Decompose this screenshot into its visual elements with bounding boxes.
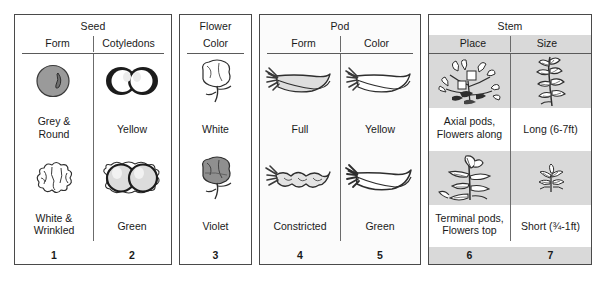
subheader-row-flower: Color (187, 35, 244, 54)
cell-violet-flower: Violet (180, 151, 251, 248)
panel-seed: Seed Form Cotyledons Grey & Round (14, 14, 172, 265)
cell-constricted-pod: Constricted (260, 151, 340, 248)
caption-yellow-pod: Yellow (340, 108, 420, 151)
number-row-seed: 1 2 (15, 247, 171, 264)
group-title-stem: Stem (429, 15, 591, 35)
trait-number-4: 4 (260, 247, 340, 261)
column-seed-form: Grey & Round White & Wrinkled (15, 54, 93, 247)
axial-flowers-plant-icon (429, 54, 510, 108)
number-row-flower: 3 (180, 247, 251, 264)
group-title-flower: Flower (180, 15, 251, 35)
tall-plant-icon (510, 54, 591, 108)
panel-flower: Flower Color Wh (179, 14, 252, 265)
terminal-flowers-plant-icon (429, 151, 510, 205)
subheader-stem-size: Size (510, 35, 584, 53)
green-pod-icon (340, 151, 420, 205)
caption-long-stem: Long (6-7ft) (510, 108, 591, 151)
number-row-stem: 6 7 (429, 247, 591, 264)
caption-green-cotyledons: Green (93, 205, 171, 248)
caption-constricted-pod: Constricted (260, 205, 340, 248)
panel-stem: Stem Place Size (428, 14, 592, 265)
columns-flower: White Violet (180, 54, 251, 247)
caption-short-stem: Short (¾-1ft) (510, 205, 591, 248)
subheader-stem-place: Place (436, 35, 510, 53)
columns-pod: Full Constricted (260, 54, 420, 247)
caption-white-wrinkled: White & Wrinkled (15, 205, 93, 248)
cell-white-flower: White (180, 54, 251, 151)
green-cotyledons-icon (93, 151, 171, 205)
columns-stem: Axial pods, Flowers along (429, 54, 591, 247)
caption-violet-flower: Violet (180, 205, 251, 248)
group-title-seed: Seed (15, 15, 171, 35)
subheader-seed-cotyledons: Cotyledons (93, 35, 164, 53)
number-row-pod: 4 5 (260, 247, 420, 264)
caption-axial-pods: Axial pods, Flowers along (429, 108, 510, 151)
wrinkled-white-seed-icon (15, 151, 93, 205)
round-grey-seed-icon (15, 54, 93, 108)
column-stem-place: Axial pods, Flowers along (429, 54, 510, 247)
trait-number-1: 1 (15, 247, 93, 261)
caption-full-pod: Full (260, 108, 340, 151)
cell-axial-pods: Axial pods, Flowers along (429, 54, 510, 151)
column-pod-color: Yellow Green (340, 54, 420, 247)
trait-number-5: 5 (340, 247, 420, 261)
violet-flower-icon (180, 151, 251, 205)
full-pod-icon (260, 54, 340, 108)
trait-number-7: 7 (510, 247, 591, 261)
caption-white-flower: White (180, 108, 251, 151)
caption-yellow-cotyledons: Yellow (93, 108, 171, 151)
constricted-pod-icon (260, 151, 340, 205)
cell-green-cotyledons: Green (93, 151, 171, 248)
column-pod-form: Full Constricted (260, 54, 340, 247)
trait-number-2: 2 (93, 247, 171, 261)
subheader-seed-form: Form (22, 35, 93, 53)
cell-yellow-cotyledons: Yellow (93, 54, 171, 151)
caption-grey-round: Grey & Round (15, 108, 93, 151)
caption-terminal-pods: Terminal pods, Flowers top (429, 205, 510, 248)
cell-short-stem: Short (¾-1ft) (510, 151, 591, 248)
subheader-pod-form: Form (267, 35, 340, 53)
columns-seed: Grey & Round White & Wrinkled (15, 54, 171, 247)
column-flower-color: White Violet (180, 54, 251, 247)
trait-number-3: 3 (180, 247, 251, 261)
column-seed-cotyledons: Yellow Green (93, 54, 171, 247)
yellow-pod-icon (340, 54, 420, 108)
subheader-row-seed: Form Cotyledons (22, 35, 164, 54)
cell-terminal-pods: Terminal pods, Flowers top (429, 151, 510, 248)
trait-number-6: 6 (429, 247, 510, 261)
white-flower-icon (180, 54, 251, 108)
group-title-pod: Pod (260, 15, 420, 35)
subheader-flower-color: Color (187, 35, 244, 53)
cell-yellow-pod: Yellow (340, 54, 420, 151)
cell-long-stem: Long (6-7ft) (510, 54, 591, 151)
short-plant-icon (510, 151, 591, 205)
cell-full-pod: Full (260, 54, 340, 151)
cell-white-wrinkled: White & Wrinkled (15, 151, 93, 248)
panel-pod: Pod Form Color Full (259, 14, 421, 265)
yellow-cotyledons-icon (93, 54, 171, 108)
cell-grey-round: Grey & Round (15, 54, 93, 151)
cell-green-pod: Green (340, 151, 420, 248)
column-stem-size: Long (6-7ft) (510, 54, 591, 247)
subheader-pod-color: Color (340, 35, 413, 53)
subheader-row-stem: Place Size (429, 35, 591, 54)
caption-green-pod: Green (340, 205, 420, 248)
mendel-pea-traits-figure: Seed Form Cotyledons Grey & Round (0, 0, 600, 283)
subheader-row-pod: Form Color (267, 35, 413, 54)
